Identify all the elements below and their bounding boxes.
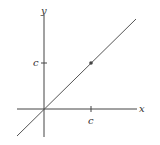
y-axis-label: y [40, 5, 47, 16]
x-axis-label: x [139, 103, 145, 114]
y-tick-label: c [33, 57, 39, 68]
coordinate-diagram: y x c c [0, 0, 160, 145]
x-tick-label: c [88, 115, 94, 126]
point-c-c [89, 61, 93, 65]
line-y-equals-x [17, 19, 136, 136]
